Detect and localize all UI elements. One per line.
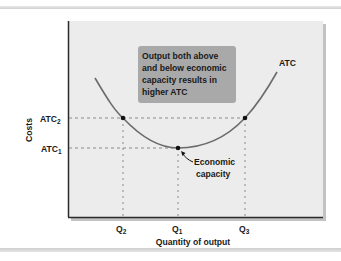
xtick-q1: Q1 (172, 224, 183, 235)
atc-chart: Output both above and below economic cap… (0, 0, 341, 261)
point-q1-min (176, 146, 181, 151)
ytick-atc2: ATC2 (40, 114, 61, 125)
point-q3 (243, 116, 248, 121)
xtick-q2: Q2 (116, 224, 127, 235)
x-axis-title: Quantity of output (156, 237, 231, 247)
y-axis-title: Costs (24, 118, 34, 142)
ytick-atc1: ATC1 (41, 144, 62, 155)
point-q2 (121, 116, 126, 121)
xtick-q3: Q3 (239, 224, 250, 235)
curve-label: ATC (279, 58, 296, 68)
